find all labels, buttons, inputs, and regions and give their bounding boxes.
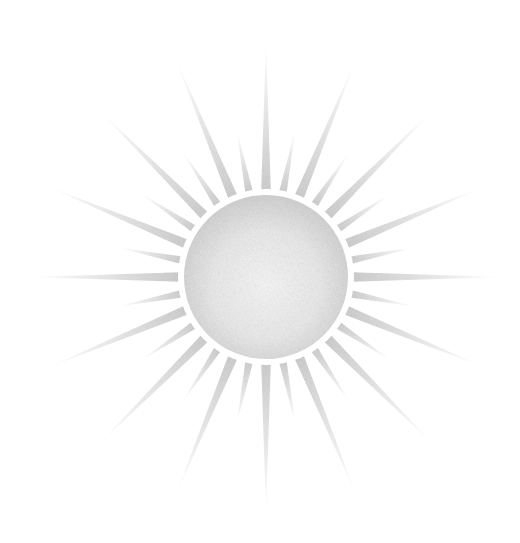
long-ray — [261, 363, 271, 512]
long-ray — [49, 305, 189, 367]
long-ray — [261, 42, 271, 191]
sun-illustration — [0, 0, 520, 543]
short-ray — [350, 248, 414, 264]
long-ray — [176, 354, 238, 494]
short-ray — [119, 290, 183, 306]
short-ray — [119, 248, 183, 264]
long-ray — [49, 187, 189, 249]
long-ray — [352, 272, 501, 282]
long-ray — [343, 187, 483, 249]
long-ray — [176, 60, 238, 200]
sun-disc — [184, 195, 348, 359]
short-ray — [237, 130, 253, 194]
long-ray — [31, 272, 180, 282]
short-ray — [350, 290, 414, 306]
short-ray — [279, 130, 295, 194]
long-ray — [294, 354, 356, 494]
short-ray — [237, 361, 253, 425]
short-ray — [279, 361, 295, 425]
long-ray — [343, 305, 483, 367]
long-ray — [294, 60, 356, 200]
